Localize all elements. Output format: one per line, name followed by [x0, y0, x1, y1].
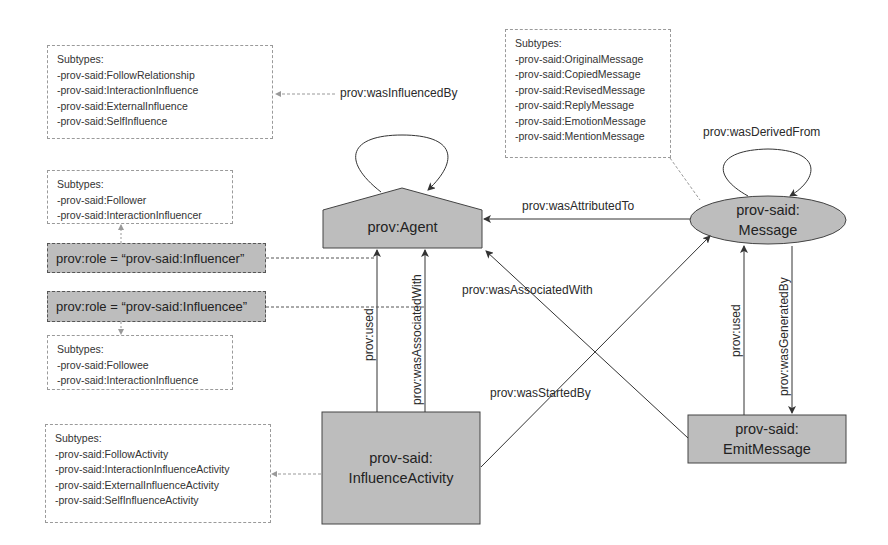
edge-label-was-generated-by: prov:wasGeneratedBy — [777, 277, 791, 396]
agent-node[interactable]: prov:Agent — [323, 217, 482, 237]
note-item: -prov-said:FollowActivity — [55, 447, 262, 463]
message-node[interactable]: prov-said: Message — [690, 200, 846, 240]
influence-activity-label-line1: prov-said: — [322, 448, 480, 468]
note-item: -prov-said:EmotionMessage — [515, 114, 662, 130]
note-item: -prov-said:CopiedMessage — [515, 67, 662, 83]
note-title: Subtypes: — [57, 52, 264, 68]
influencee-subtypes-note: Subtypes: -prov-said:Followee -prov-said… — [47, 335, 233, 390]
edge-label-was-attributed-to: prov:wasAttributedTo — [522, 199, 634, 213]
edge-label-activity-used: prov:used — [362, 308, 376, 361]
emit-message-label-line2: EmitMessage — [688, 439, 846, 459]
influence-activity-label-line2: InfluenceActivity — [322, 468, 480, 488]
note-item: -prov-said:SelfInfluenceActivity — [55, 493, 262, 509]
note-item: -prov-said:FollowRelationship — [57, 68, 264, 84]
edge-label-was-associated-with: prov:wasAssociatedWith — [462, 283, 593, 297]
note-item: -prov-said:RevisedMessage — [515, 83, 662, 99]
activity-subtypes-note: Subtypes: -prov-said:FollowActivity -pro… — [45, 424, 271, 523]
edge-label-activity-was-associated-with: prov:wasAssociatedWith — [410, 274, 424, 405]
role-influencee-box[interactable]: prov:role = “prov-said:Influencee” — [47, 291, 266, 322]
note-title: Subtypes: — [57, 342, 224, 358]
note-title: Subtypes: — [55, 431, 262, 447]
emit-message-node[interactable]: prov-said: EmitMessage — [688, 419, 846, 459]
note-item: -prov-said:ReplyMessage — [515, 98, 662, 114]
emit-message-label-line1: prov-said: — [688, 419, 846, 439]
note-item: -prov-said:InteractionInfluencer — [57, 208, 224, 224]
edge-label-was-influenced-by: prov:wasInfluencedBy — [340, 86, 457, 100]
note-item: -prov-said:OriginalMessage — [515, 52, 662, 68]
role-influencee-label: prov:role = “prov-said:Influencee” — [56, 299, 247, 314]
note-item: -prov-said:Followee — [57, 358, 224, 374]
influence-subtypes-note: Subtypes: -prov-said:FollowRelationship … — [47, 45, 273, 139]
note-title: Subtypes: — [515, 36, 662, 52]
agent-self-loop — [356, 135, 448, 192]
note-item: -prov-said:InteractionInfluenceActivity — [55, 462, 262, 478]
edge-label-was-derived-from: prov:wasDerivedFrom — [703, 125, 820, 139]
note-item: -prov-said:ExternalInfluence — [57, 99, 264, 115]
note-item: -prov-said:SelfInfluence — [57, 114, 264, 130]
message-label-line1: prov-said: — [690, 200, 846, 220]
agent-label: prov:Agent — [367, 219, 437, 235]
role-influencer-label: prov:role = “prov-said:Influencer” — [56, 251, 244, 266]
note-item: -prov-said:InteractionInfluence — [57, 373, 224, 389]
note-item: -prov-said:MentionMessage — [515, 129, 662, 145]
edge-label-was-started-by: prov:wasStartedBy — [490, 386, 591, 400]
message-self-loop — [723, 149, 811, 196]
note-item: -prov-said:ExternalInfluenceActivity — [55, 478, 262, 494]
role-influencer-box[interactable]: prov:role = “prov-said:Influencer” — [47, 243, 266, 273]
note-item: -prov-said:Follower — [57, 193, 224, 209]
influence-activity-node[interactable]: prov-said: InfluenceActivity — [322, 448, 480, 488]
edge-label-emit-used: prov:used — [729, 304, 743, 357]
message-label-line2: Message — [690, 220, 846, 240]
note-title: Subtypes: — [57, 177, 224, 193]
influencer-subtypes-note: Subtypes: -prov-said:Follower -prov-said… — [47, 170, 233, 224]
note-item: -prov-said:InteractionInfluence — [57, 83, 264, 99]
message-subtypes-note: Subtypes: -prov-said:OriginalMessage -pr… — [505, 29, 671, 158]
